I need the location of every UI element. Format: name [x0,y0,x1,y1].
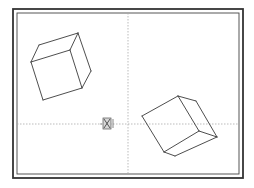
ucs-icon [100,118,113,129]
drawing-objects [31,33,217,156]
cube-1[interactable] [31,33,91,100]
cube-2[interactable] [142,96,217,156]
model-space-canvas[interactable] [0,0,254,188]
drawing-viewport[interactable] [0,0,254,188]
